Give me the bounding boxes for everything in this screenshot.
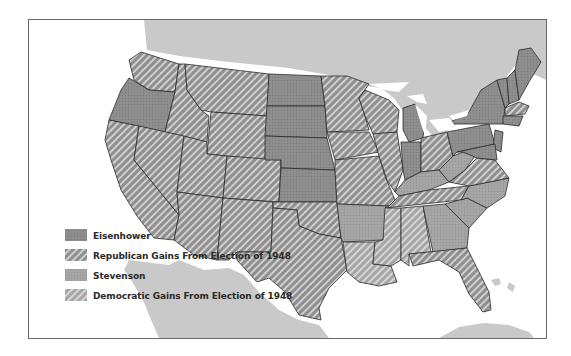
- legend-item-eisenhower: Eisenhower: [93, 226, 292, 246]
- state-south-dakota: [265, 106, 327, 138]
- legend-swatch-stevenson: [65, 269, 87, 281]
- state-north-dakota: [267, 74, 325, 106]
- state-iowa: [327, 132, 379, 160]
- state-colorado: [223, 156, 281, 202]
- legend-item-stevenson: Stevenson: [93, 266, 292, 286]
- legend-swatch-democratic-gains: [65, 289, 87, 301]
- bahamas-land: [491, 278, 515, 292]
- legend-label: Stevenson: [93, 271, 145, 281]
- cuba-land: [439, 323, 534, 338]
- legend-item-republican-gains: Republican Gains From Election of 1948: [93, 246, 292, 266]
- state-kansas: [279, 168, 337, 202]
- state-wyoming: [207, 112, 267, 160]
- state-connecticut: [503, 116, 523, 126]
- legend-label: Eisenhower: [93, 231, 151, 241]
- legend-swatch-republican-gains: [65, 249, 87, 261]
- state-florida: [409, 248, 491, 312]
- legend-label: Republican Gains From Election of 1948: [93, 251, 291, 261]
- legend-item-democratic-gains: Democratic Gains From Election of 1948: [93, 286, 292, 306]
- state-arkansas: [337, 204, 389, 242]
- legend-swatch-eisenhower: [65, 229, 87, 241]
- map-frame: Eisenhower Republican Gains From Electio…: [28, 19, 547, 339]
- legend-label: Democratic Gains From Election of 1948: [93, 291, 292, 301]
- map-legend: Eisenhower Republican Gains From Electio…: [93, 226, 292, 306]
